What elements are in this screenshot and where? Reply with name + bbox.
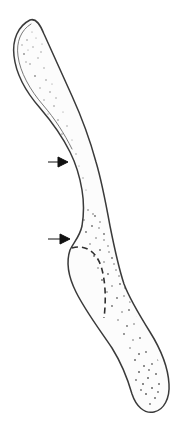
bone-illustration-canvas — [0, 0, 186, 432]
bone-body-group — [14, 20, 169, 413]
bone-fill-shape — [14, 20, 169, 413]
bone-illustration-figure — [0, 0, 186, 432]
annotation-arrow-upper — [48, 157, 68, 167]
annotation-arrow-lower — [48, 234, 70, 244]
